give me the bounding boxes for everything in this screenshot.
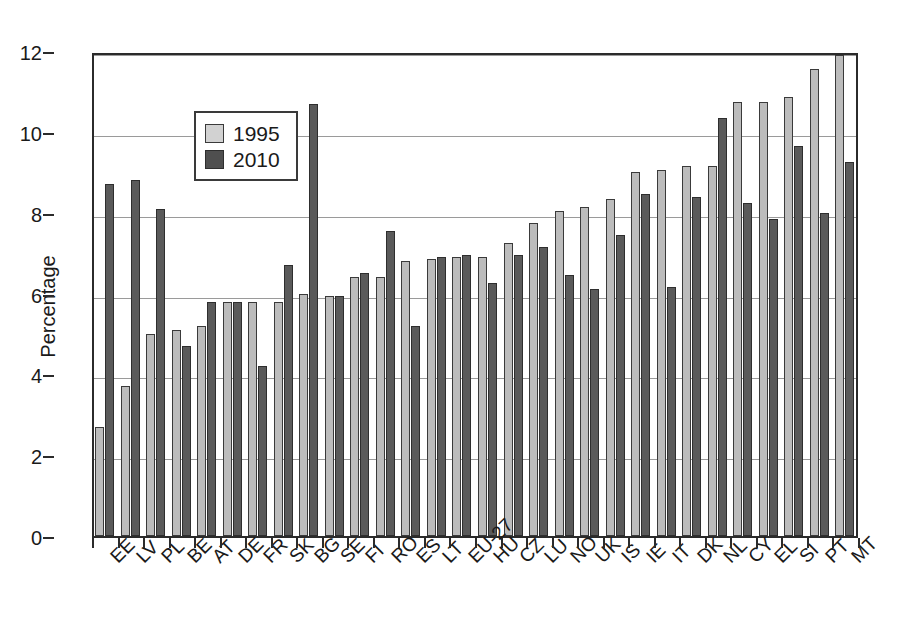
- bar-2010: [794, 146, 803, 536]
- legend-item-2010: 2010: [205, 146, 280, 172]
- bar-1995: [784, 97, 793, 536]
- bar-2010: [845, 162, 854, 536]
- legend: 1995 2010: [194, 111, 298, 181]
- bar-2010: [641, 194, 650, 536]
- bar-2010: [820, 213, 829, 536]
- bar-group: [681, 55, 707, 536]
- bar-1995: [401, 261, 410, 536]
- bar-group: [605, 55, 631, 536]
- x-tick-mark: [603, 538, 605, 548]
- bar-2010: [616, 235, 625, 536]
- bar-chart-figure: Percentage 024681012 1995 2010 EELVPLBEA…: [0, 0, 901, 628]
- x-tick-mark: [347, 538, 349, 548]
- y-axis: Percentage 024681012: [0, 0, 92, 628]
- bar-2010: [360, 273, 369, 536]
- legend-label-2010: 2010: [233, 149, 280, 170]
- bar-2010: [105, 184, 114, 536]
- y-tick-mark: [43, 133, 54, 135]
- bar-group: [145, 55, 171, 536]
- bar-1995: [146, 334, 155, 536]
- bar-1995: [197, 326, 206, 536]
- bar-1995: [631, 172, 640, 536]
- bar-1995: [427, 259, 436, 536]
- bar-group: [783, 55, 809, 536]
- bar-1995: [529, 223, 538, 536]
- bar-2010: [284, 265, 293, 536]
- y-tick-mark: [43, 295, 54, 297]
- bar-2010: [411, 326, 420, 536]
- bar-group: [120, 55, 146, 536]
- bar-1995: [299, 294, 308, 537]
- bar-group: [400, 55, 426, 536]
- bar-2010: [182, 346, 191, 536]
- x-tick-mark: [730, 538, 732, 548]
- bar-group: [630, 55, 656, 536]
- bar-group: [349, 55, 375, 536]
- x-tick-mark: [807, 538, 809, 548]
- y-tick-mark: [43, 214, 54, 216]
- bar-1995: [376, 277, 385, 536]
- bar-group: [298, 55, 324, 536]
- bar-1995: [478, 257, 487, 536]
- x-tick-mark: [858, 538, 860, 548]
- bar-group: [451, 55, 477, 536]
- x-tick-mark: [169, 538, 171, 548]
- bar-group: [656, 55, 682, 536]
- bar-1995: [708, 166, 717, 536]
- x-tick-label: IE: [642, 539, 670, 567]
- bar-1995: [350, 277, 359, 536]
- bar-1995: [759, 102, 768, 536]
- bar-2010: [156, 209, 165, 536]
- x-tick-mark: [143, 538, 145, 548]
- bar-1995: [223, 302, 232, 536]
- x-tick-label: MT: [847, 533, 882, 568]
- legend-swatch-1995-icon: [205, 124, 224, 143]
- x-tick-mark: [705, 538, 707, 548]
- bar-group: [834, 55, 860, 536]
- bar-group: [477, 55, 503, 536]
- bar-group: [503, 55, 529, 536]
- x-tick-mark: [781, 538, 783, 548]
- y-tick-mark: [43, 375, 54, 377]
- x-tick-label: IT: [668, 540, 695, 567]
- x-tick-mark: [92, 538, 94, 548]
- bar-2010: [514, 255, 523, 536]
- bar-2010: [718, 118, 727, 536]
- x-tick-mark: [322, 538, 324, 548]
- bar-2010: [386, 231, 395, 536]
- bar-2010: [769, 219, 778, 536]
- x-axis: EELVPLBEATDEFRSKBGSEFIROESLTEU-27HUCZLUN…: [92, 538, 858, 628]
- bar-2010: [207, 302, 216, 536]
- bar-2010: [258, 366, 267, 536]
- y-tick-label: 0: [31, 527, 42, 550]
- bar-group: [809, 55, 835, 536]
- x-tick-mark: [398, 538, 400, 548]
- x-tick-mark: [679, 538, 681, 548]
- bar-1995: [810, 69, 819, 536]
- x-tick-mark: [245, 538, 247, 548]
- bar-2010: [488, 283, 497, 536]
- bar-1995: [452, 257, 461, 536]
- bar-group: [171, 55, 197, 536]
- bar-2010: [131, 180, 140, 536]
- bar-2010: [233, 302, 242, 536]
- x-tick-mark: [271, 538, 273, 548]
- bar-2010: [667, 287, 676, 536]
- bar-1995: [325, 296, 334, 536]
- bar-group: [554, 55, 580, 536]
- x-tick-mark: [475, 538, 477, 548]
- x-tick-mark: [449, 538, 451, 548]
- bar-2010: [437, 257, 446, 536]
- bar-1995: [835, 55, 844, 536]
- x-tick-mark: [628, 538, 630, 548]
- bar-2010: [565, 275, 574, 536]
- bar-1995: [657, 170, 666, 536]
- x-tick-mark: [654, 538, 656, 548]
- bar-group: [426, 55, 452, 536]
- bar-2010: [309, 104, 318, 536]
- x-tick-mark: [296, 538, 298, 548]
- bar-2010: [335, 296, 344, 536]
- bar-group: [758, 55, 784, 536]
- bar-2010: [692, 197, 701, 537]
- bar-1995: [95, 427, 104, 536]
